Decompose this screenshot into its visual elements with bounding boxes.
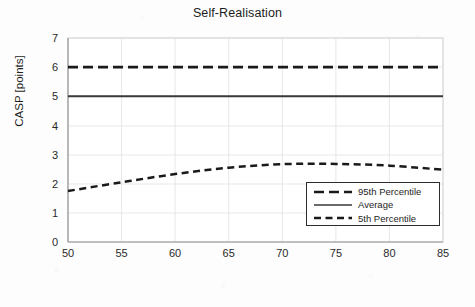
legend-item-average: Average: [307, 198, 439, 211]
legend-item-95th-percentile: 95th Percentile: [307, 185, 439, 198]
legend-label-average: Average: [358, 199, 393, 210]
legend-swatch-dashed-long-icon: [313, 186, 353, 198]
plot-area: [0, 0, 475, 307]
legend-swatch-dashed-short-icon: [313, 212, 353, 224]
chart-figure: Self-Realisation CASP [points] 7 6 5 4 3…: [0, 0, 475, 307]
legend-item-5th-percentile: 5th Percentile: [307, 212, 439, 225]
chart-legend: 95th Percentile Average 5th Percentile: [306, 182, 440, 226]
legend-label-5th-percentile: 5th Percentile: [358, 213, 416, 224]
legend-swatch-solid-icon: [313, 199, 353, 211]
legend-label-95th-percentile: 95th Percentile: [358, 186, 421, 197]
